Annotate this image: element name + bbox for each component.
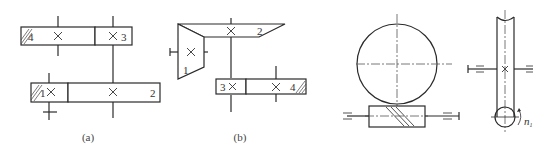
label-gear-4: 4 <box>28 31 34 43</box>
rotation-arrow-icon <box>518 110 521 125</box>
label-gear-2: 2 <box>150 87 156 99</box>
caption-b: (b) <box>234 131 247 144</box>
wheel-side-top-arc <box>497 17 514 21</box>
rotation-arrow-head-icon <box>517 108 521 112</box>
panel-a: 4 3 1 2 (a) <box>21 16 160 144</box>
label-gear-1: 1 <box>40 87 46 99</box>
gear-train-diagram: 4 3 1 2 (a) <box>0 0 552 149</box>
label-gear-2: 2 <box>257 25 263 37</box>
label-gear-4: 4 <box>290 81 296 93</box>
label-gear-3: 3 <box>121 31 127 43</box>
panel-c-worm-gear: n1 <box>343 10 533 132</box>
label-gear-3: 3 <box>220 81 226 93</box>
worm <box>369 106 425 127</box>
caption-a: (a) <box>82 131 95 144</box>
rotation-label: n1 <box>524 115 533 128</box>
label-gear-1: 1 <box>183 64 189 76</box>
panel-b: 2 1 3 4 (b) <box>170 18 306 144</box>
